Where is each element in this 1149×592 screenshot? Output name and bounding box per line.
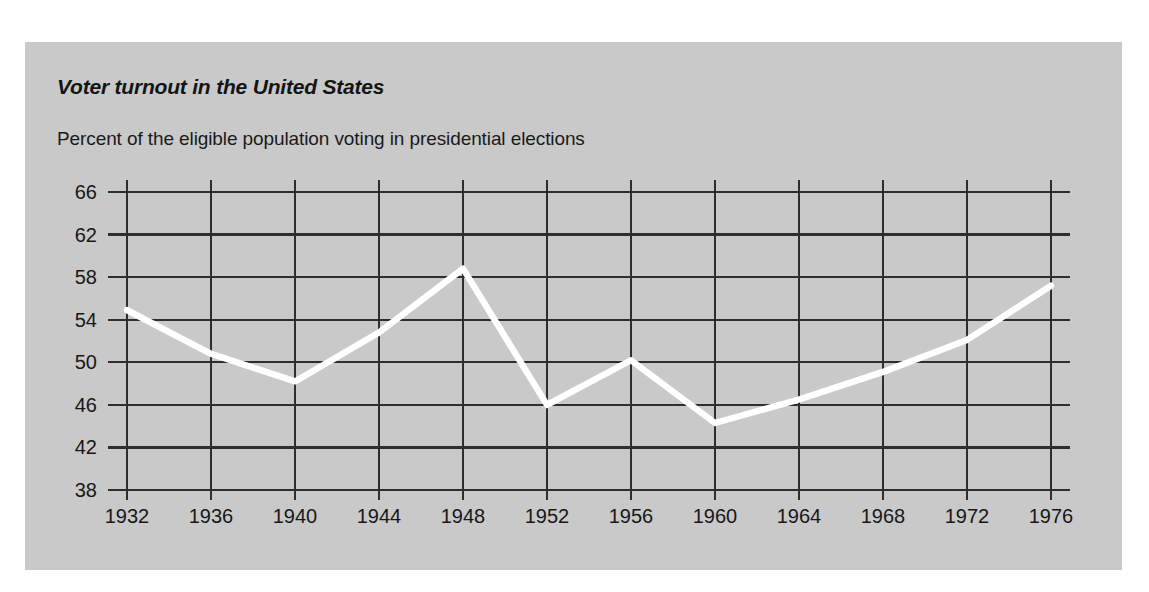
x-axis-label: 1952 <box>525 505 570 527</box>
y-axis-label: 54 <box>75 309 97 331</box>
y-axis-label: 46 <box>75 394 97 416</box>
x-axis-label: 1960 <box>693 505 738 527</box>
y-axis-label: 66 <box>75 181 97 203</box>
y-axis-label: 42 <box>75 436 97 458</box>
x-axis-label: 1948 <box>441 505 486 527</box>
data-series-line <box>127 269 1051 423</box>
y-axis-label: 38 <box>75 479 97 501</box>
chart-page: Voter turnout in the United States Perce… <box>0 0 1149 592</box>
x-axis-label: 1956 <box>609 505 654 527</box>
line-chart: 3842465054586266 19321936194019441948195… <box>0 0 1149 592</box>
y-axis-label: 50 <box>75 351 97 373</box>
x-axis-label: 1932 <box>105 505 150 527</box>
x-axis-label: 1940 <box>273 505 318 527</box>
x-axis-label: 1972 <box>945 505 990 527</box>
x-axis-label: 1976 <box>1029 505 1074 527</box>
x-axis-label: 1944 <box>357 505 402 527</box>
y-gridlines <box>108 192 1070 490</box>
x-axis-label: 1964 <box>777 505 822 527</box>
x-axis-label: 1968 <box>861 505 906 527</box>
x-axis-label: 1936 <box>189 505 234 527</box>
y-axis-tick-labels: 3842465054586266 <box>75 181 97 501</box>
x-axis-tick-labels: 1932193619401944194819521956196019641968… <box>105 505 1074 527</box>
y-axis-label: 62 <box>75 224 97 246</box>
x-gridlines <box>127 180 1051 500</box>
y-axis-label: 58 <box>75 266 97 288</box>
